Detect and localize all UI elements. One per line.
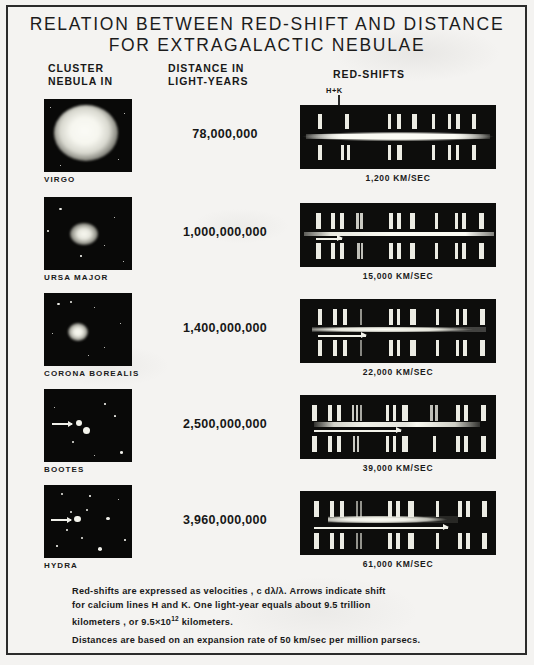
cluster-name: URSA MAJOR — [44, 273, 174, 282]
shift-arrow-icon — [316, 238, 342, 240]
distance-value: 78,000,000 — [150, 127, 300, 141]
nebula-photo-hydra — [44, 485, 132, 558]
shift-arrow-icon — [318, 335, 366, 337]
spectrum-strip-corona-borealis — [300, 299, 496, 363]
star-field — [44, 99, 132, 172]
footnote-line-3: kilometers , or 9.5×1012 kilometers. — [72, 612, 502, 629]
footnote-line-4: Distances are based on an expansion rate… — [72, 633, 502, 647]
table-row: VIRGO 78,000,000 H+K — [0, 99, 534, 195]
star-field — [44, 293, 132, 366]
cluster-name: VIRGO — [44, 175, 174, 184]
footnote-line-1: Red-shifts are expressed as velocities ,… — [72, 584, 502, 598]
distance-value: 1,400,000,000 — [150, 321, 300, 335]
shift-arrow-icon — [314, 430, 401, 432]
distance-value: 3,960,000,000 — [150, 513, 300, 527]
spectrum-strip-bootes — [300, 395, 496, 459]
distance-value: 2,500,000,000 — [150, 417, 300, 431]
spectrum-strip-virgo — [300, 105, 496, 169]
spectrum-strip-hydra — [300, 491, 496, 555]
footnote-line-3-b: kilometers. — [179, 617, 233, 627]
table-row: CORONA BOREALIS 1,400,000,000 — [0, 293, 534, 389]
cluster-name: CORONA BOREALIS — [44, 369, 174, 378]
column-header-distance: DISTANCE IN LIGHT-YEARS — [168, 62, 249, 88]
nebula-pointer-arrow-icon — [51, 519, 71, 521]
column-header-redshift: RED-SHIFTS — [333, 68, 405, 81]
nebula-photo-bootes — [44, 389, 132, 462]
figure-title: RELATION BETWEEN RED-SHIFT AND DISTANCE … — [0, 14, 534, 56]
distance-value: 1,000,000,000 — [150, 225, 300, 239]
table-row: HYDRA 3,960,000,000 — [0, 485, 534, 581]
footnote-line-2: for calcium lines H and K. One light-yea… — [72, 598, 502, 612]
nebula-pointer-arrow-icon — [52, 423, 72, 425]
column-header-cluster: CLUSTER NEBULA IN — [48, 62, 113, 88]
velocity-value: 39,000 KM/SEC — [300, 463, 496, 473]
figure-plate: RELATION BETWEEN RED-SHIFT AND DISTANCE … — [0, 0, 534, 665]
footnote-line-3-a: kilometers , or 9.5×10 — [72, 617, 171, 627]
velocity-value: 61,000 KM/SEC — [300, 559, 496, 569]
spectrum-strip-ursa-major — [300, 203, 496, 267]
hk-label: H+K — [326, 86, 343, 95]
cluster-name: HYDRA — [44, 561, 174, 570]
footnote: Red-shifts are expressed as velocities ,… — [72, 584, 502, 647]
velocity-value: 1,200 KM/SEC — [300, 173, 496, 183]
nebula-photo-virgo — [44, 99, 132, 172]
shift-arrow-icon — [314, 527, 448, 529]
nebula-photo-corona-borealis — [44, 293, 132, 366]
nebula-photo-ursa-major — [44, 197, 132, 270]
star-field — [44, 485, 132, 558]
star-field — [44, 389, 132, 462]
table-row: BOOTES 2,500,000,000 — [0, 389, 534, 485]
velocity-value: 15,000 KM/SEC — [300, 271, 496, 281]
velocity-value: 22,000 KM/SEC — [300, 367, 496, 377]
cluster-name: BOOTES — [44, 465, 174, 474]
table-row: URSA MAJOR 1,000,000,000 — [0, 197, 534, 293]
footnote-exponent: 12 — [171, 615, 179, 622]
star-field — [44, 197, 132, 270]
